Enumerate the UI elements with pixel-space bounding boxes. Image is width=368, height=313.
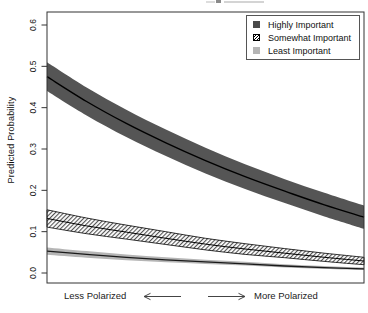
ci-band-dark bbox=[47, 62, 364, 229]
y-tick-label: 0.6 bbox=[28, 19, 38, 31]
legend-item-highly: Highly Important bbox=[253, 19, 359, 31]
right-arrow-icon bbox=[206, 292, 248, 301]
y-tick-label: 0.2 bbox=[28, 184, 38, 196]
dark-square-icon bbox=[253, 21, 260, 28]
y-tick-label: 0.3 bbox=[28, 143, 38, 155]
left-arrow-icon bbox=[141, 292, 183, 301]
legend: Highly Important Somewhat Important Leas… bbox=[246, 15, 360, 60]
hatched-square-icon bbox=[253, 34, 260, 41]
x-axis-annotation: Less Polarized More Polarized bbox=[0, 290, 368, 304]
y-axis-label: Predicted Probability bbox=[5, 40, 17, 240]
x-label-less-polarized: Less Polarized bbox=[64, 290, 126, 301]
legend-item-somewhat: Somewhat Important bbox=[253, 32, 359, 44]
legend-label-highly: Highly Important bbox=[268, 20, 334, 30]
light-square-icon bbox=[253, 47, 260, 54]
legend-label-somewhat: Somewhat Important bbox=[268, 33, 351, 43]
legend-label-least: Least Important bbox=[268, 46, 331, 56]
x-label-more-polarized: More Polarized bbox=[254, 290, 318, 301]
y-tick-label: 0.5 bbox=[28, 60, 38, 72]
legend-item-least: Least Important bbox=[253, 45, 359, 57]
y-tick-label: 0.0 bbox=[28, 267, 38, 279]
figure-root: 0.00.10.20.30.40.50.6 Predicted Probabil… bbox=[0, 0, 368, 313]
y-tick-label: 0.1 bbox=[28, 225, 38, 237]
y-tick-label: 0.4 bbox=[28, 101, 38, 113]
